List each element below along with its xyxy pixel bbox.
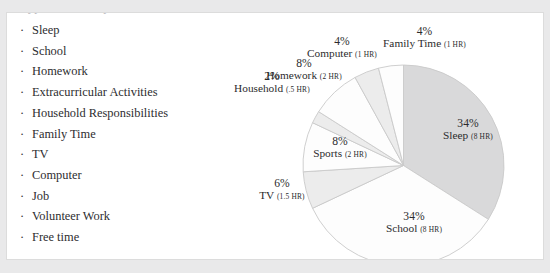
bullet-icon: ·: [20, 206, 24, 227]
pie-label-name: TV (1.5 HR): [237, 190, 327, 202]
bullet-icon: ·: [20, 124, 24, 145]
bullet-icon: ·: [20, 61, 24, 82]
pie-label-name: Family Time (1 HR): [357, 38, 492, 50]
pie-label-sleep: 34% Sleep (8 HR): [423, 118, 513, 142]
bullet-icon: ·: [20, 20, 24, 41]
bullet-icon: ·: [20, 144, 24, 165]
list-item-label: Sleep: [32, 23, 60, 37]
pie-label-name: Homework (2 HR): [244, 70, 364, 82]
bullet-icon: ·: [20, 41, 24, 62]
list-item: · Family Time: [18, 124, 248, 145]
list-item: · TV: [18, 144, 248, 165]
pie-label-school: 34% School (8 HR): [359, 211, 469, 235]
pie-label-family-time: 4% Family Time (1 HR): [357, 26, 492, 50]
bullet-icon: ·: [20, 103, 24, 124]
list-item: · Sleep: [18, 20, 248, 41]
list-item-label: School: [32, 44, 66, 58]
pie-label-name: Computer (1 HR): [277, 48, 407, 60]
bullet-icon: ·: [20, 227, 24, 248]
list-item-label: Household Responsibilities: [32, 106, 168, 120]
list-item: · Computer: [18, 165, 248, 186]
list-item: · Homework: [18, 61, 248, 82]
bullet-icon: ·: [20, 165, 24, 186]
pie-label-homework: 8% Homework (2 HR): [244, 58, 364, 82]
list-item: · Extracurricular Activities: [18, 82, 248, 103]
slide-canvas: Typical Weekday for a Student · Sleep · …: [6, 12, 544, 260]
list-item-label: Computer: [32, 168, 82, 182]
pie-label-name: Household (.5 HR): [217, 83, 327, 95]
pie-label-name: School (8 HR): [359, 223, 469, 235]
list-item-label: Extracurricular Activities: [32, 85, 158, 99]
bullet-icon: ·: [20, 186, 24, 207]
list-item: · Household Responsibilities: [18, 103, 248, 124]
list-item-label: Free time: [32, 230, 79, 244]
pie-label-name: Sports (2 HR): [295, 148, 385, 160]
list-item: · School: [18, 41, 248, 62]
activity-bullet-list: · Sleep · School · Homework · Extracurri…: [18, 20, 248, 248]
pie-label-percent: 6%: [237, 178, 327, 190]
list-item: · Job: [18, 186, 248, 207]
list-item-label: Job: [32, 189, 49, 203]
list-item-label: Homework: [32, 64, 88, 78]
list-item-label: TV: [32, 147, 49, 161]
pie-label-tv: 6% TV (1.5 HR): [237, 178, 327, 202]
pie-chart: 34% Sleep (8 HR) 34% School (8 HR) 6% TV…: [247, 13, 544, 259]
pie-label-sports: 8% Sports (2 HR): [295, 136, 385, 160]
list-item-label: Volunteer Work: [32, 209, 110, 223]
list-item: · Free time: [18, 227, 248, 248]
list-item-label: Family Time: [32, 127, 96, 141]
list-item: · Volunteer Work: [18, 206, 248, 227]
bullet-icon: ·: [20, 82, 24, 103]
pie-label-name: Sleep (8 HR): [423, 130, 513, 142]
